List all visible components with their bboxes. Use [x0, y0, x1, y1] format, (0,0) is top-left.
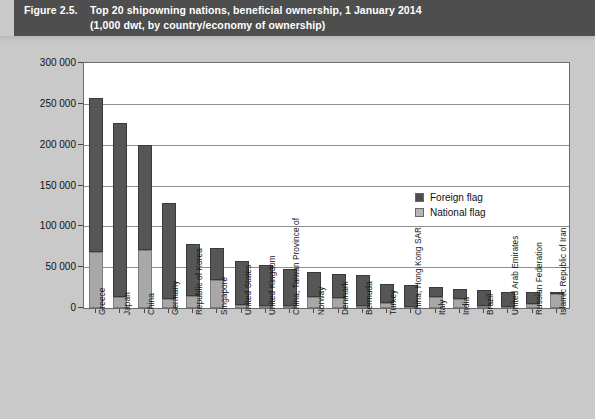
x-axis-tick-mark	[241, 309, 242, 313]
x-axis-tick-mark	[532, 309, 533, 313]
x-axis-tick-label: United Arab Emirates	[511, 236, 520, 315]
x-axis-tick-label: China, Hong Kong SAR	[414, 227, 423, 315]
x-axis-tick-mark	[95, 309, 96, 313]
x-axis-tick-mark	[459, 309, 460, 313]
y-axis-tick-label: 0	[6, 302, 76, 313]
bar-segment-foreign-flag[interactable]	[210, 248, 224, 281]
figure-title-line1: Top 20 shipowning nations, beneficial ow…	[90, 3, 595, 18]
legend-item[interactable]: Foreign flag	[415, 190, 486, 205]
y-axis-tick-label: 250 000	[6, 97, 76, 108]
x-axis-tick-label: Turkey	[389, 290, 398, 315]
x-axis-tick-mark	[313, 309, 314, 313]
x-axis-tick-label: Russian Federation	[535, 242, 544, 315]
x-axis-tick-mark	[289, 309, 290, 313]
x-axis-tick-mark	[265, 309, 266, 313]
x-axis-tick-label: Singapore	[220, 277, 229, 315]
legend-label: Foreign flag	[430, 192, 483, 203]
x-axis-tick-label: Greece	[98, 288, 107, 315]
y-axis-tick-label: 200 000	[6, 138, 76, 149]
x-axis-tick-label: Germany	[171, 281, 180, 315]
x-axis-tick-label: China, Taiwan Province of	[292, 218, 301, 315]
x-axis-tick-mark	[168, 309, 169, 313]
chart-legend: Foreign flagNational flag	[415, 190, 486, 220]
x-axis-tick-mark	[386, 309, 387, 313]
x-axis-tick-mark	[483, 309, 484, 313]
x-axis-tick-mark	[410, 309, 411, 313]
x-axis-tick-label: Italy	[438, 299, 447, 315]
figure-title-line2: (1,000 dwt, by country/economy of owners…	[90, 18, 595, 33]
bar-group[interactable]	[113, 123, 127, 308]
x-axis-tick-label: United Kingdom	[268, 255, 277, 315]
bar-segment-foreign-flag[interactable]	[429, 287, 443, 297]
legend-item[interactable]: National flag	[415, 205, 486, 220]
x-axis-tick-label: United States	[244, 265, 253, 315]
x-axis-tick-label: Japan	[123, 292, 132, 315]
x-axis-tick-label: Denmark	[341, 281, 350, 315]
y-axis-tick-label: 300 000	[6, 57, 76, 68]
x-axis-tick-mark	[192, 309, 193, 313]
chart-region: 050 000100 000150 000200 000250 000300 0…	[0, 42, 595, 419]
x-axis-tick-mark	[119, 309, 120, 313]
bar-group[interactable]	[89, 98, 103, 308]
bar-segment-foreign-flag[interactable]	[138, 145, 152, 250]
x-axis-tick-label: China	[147, 293, 156, 315]
figure-header: Figure 2.5. Top 20 shipowning nations, b…	[14, 0, 595, 36]
bar-group[interactable]	[138, 145, 152, 308]
x-axis-tick-mark	[556, 309, 557, 313]
figure-number: Figure 2.5.	[24, 3, 90, 18]
x-axis-tick-label: Norway	[317, 287, 326, 315]
x-axis-tick-label: Bermuda	[365, 281, 374, 315]
x-axis-tick-label: India	[462, 297, 471, 315]
x-axis-tick-label: Islamic Republic of Iran	[559, 228, 568, 316]
plot-area	[83, 62, 570, 309]
y-axis-tick-label: 50 000	[6, 261, 76, 272]
x-axis-tick-mark	[507, 309, 508, 313]
bars-layer	[84, 63, 569, 308]
bar-segment-foreign-flag[interactable]	[89, 98, 103, 252]
legend-swatch-icon	[415, 193, 424, 202]
y-axis-tick-label: 100 000	[6, 220, 76, 231]
x-axis-tick-mark	[362, 309, 363, 313]
y-axis-tick-label: 150 000	[6, 179, 76, 190]
x-axis-tick-mark	[144, 309, 145, 313]
x-axis-tick-mark	[216, 309, 217, 313]
x-axis-tick-label: Brazil	[486, 294, 495, 315]
x-axis-tick-label: Republic of Korea	[195, 248, 204, 315]
bar-segment-foreign-flag[interactable]	[113, 123, 127, 297]
legend-label: National flag	[430, 207, 486, 218]
legend-swatch-icon	[415, 208, 424, 217]
x-axis-tick-mark	[435, 309, 436, 313]
x-axis-tick-mark	[338, 309, 339, 313]
